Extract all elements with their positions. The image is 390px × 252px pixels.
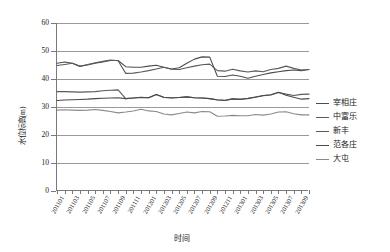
legend-label: 新丰 xyxy=(333,127,349,135)
x-tick-label-201111: 201111 xyxy=(127,195,142,215)
y-tick-40 xyxy=(51,79,56,80)
water-level-line-chart: 水位标高(m) 0102030405060 201101201103201105… xyxy=(0,0,390,252)
y-tick-label-0: 0 xyxy=(45,187,49,195)
y-tick-60 xyxy=(51,23,56,24)
y-tick-0 xyxy=(51,191,56,192)
y-tick-label-20: 20 xyxy=(42,131,50,139)
legend-item-大屯[interactable]: 大屯 xyxy=(316,152,390,166)
x-tick-label-201109: 201109 xyxy=(111,195,126,215)
series-lines xyxy=(57,23,309,191)
legend-label: 中富乐 xyxy=(333,113,357,121)
y-tick-10 xyxy=(51,163,56,164)
y-tick-label-60: 60 xyxy=(42,19,50,27)
x-tick-201310 xyxy=(309,190,310,194)
series-line-中富乐 xyxy=(57,60,309,73)
x-tick-label-201309: 201309 xyxy=(295,195,310,215)
chart-legend: 宰相庄中富乐新丰范各庄大屯 xyxy=(316,96,390,166)
x-tick-label-201209: 201209 xyxy=(203,195,218,215)
x-tick-label-201205: 201205 xyxy=(172,195,187,215)
legend-item-宰相庄[interactable]: 宰相庄 xyxy=(316,96,390,110)
x-tick-label-201211: 201211 xyxy=(218,195,233,215)
y-axis-title: 水位标高(m) xyxy=(16,107,27,146)
legend-item-新丰[interactable]: 新丰 xyxy=(316,124,390,138)
y-tick-30 xyxy=(51,107,56,108)
legend-label: 宰相庄 xyxy=(333,99,357,107)
series-line-宰相庄 xyxy=(57,57,309,78)
legend-item-范各庄[interactable]: 范各庄 xyxy=(316,138,390,152)
legend-label: 大屯 xyxy=(333,155,349,163)
y-tick-20 xyxy=(51,135,56,136)
x-tick-label-201301: 201301 xyxy=(234,195,249,215)
legend-swatch-icon xyxy=(316,145,329,146)
x-tick-label-201203: 201203 xyxy=(157,195,172,215)
y-tick-label-40: 40 xyxy=(42,75,50,83)
y-tick-50 xyxy=(51,51,56,52)
series-line-大屯 xyxy=(57,109,309,116)
y-tick-label-30: 30 xyxy=(42,103,50,111)
x-tick-label-201303: 201303 xyxy=(249,195,264,215)
x-tick-label-201105: 201105 xyxy=(81,195,96,215)
legend-swatch-icon xyxy=(316,117,329,118)
x-tick-label-201103: 201103 xyxy=(66,195,81,215)
legend-label: 范各庄 xyxy=(333,141,357,149)
y-tick-label-50: 50 xyxy=(42,47,50,55)
series-line-范各庄 xyxy=(57,92,309,100)
legend-swatch-icon xyxy=(316,159,329,160)
x-tick-label-201307: 201307 xyxy=(279,195,294,215)
x-tick-label-201107: 201107 xyxy=(96,195,111,215)
x-tick-label-201101: 201101 xyxy=(50,195,65,215)
x-tick-label-201305: 201305 xyxy=(264,195,279,215)
x-axis-title: 时间 xyxy=(56,232,308,243)
legend-item-中富乐[interactable]: 中富乐 xyxy=(316,110,390,124)
legend-swatch-icon xyxy=(316,103,329,104)
x-tick-label-201207: 201207 xyxy=(188,195,203,215)
x-tick-label-201201: 201201 xyxy=(142,195,157,215)
legend-swatch-icon xyxy=(316,131,329,132)
y-tick-label-10: 10 xyxy=(42,159,50,167)
plot-area: 0102030405060 20110120110320110520110720… xyxy=(56,23,308,191)
